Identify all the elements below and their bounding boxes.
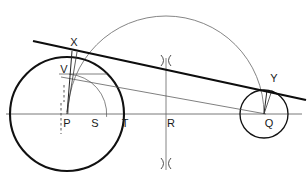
chord-near-x [67, 52, 77, 112]
label-y: Y [270, 72, 278, 84]
label-x: X [70, 36, 78, 48]
line-v-to-q [61, 77, 266, 114]
label-v: V [60, 63, 68, 75]
label-s: S [91, 117, 98, 129]
label-q: Q [265, 117, 274, 129]
radius-p-to-x [67, 51, 72, 114]
label-t: T [122, 117, 129, 129]
geometry-canvas: P S T R Q X V Y [0, 0, 308, 182]
auxiliary-arc-v-to-s [69, 74, 107, 117]
label-r: R [167, 117, 175, 129]
geometry-figure: P S T R Q X V Y [0, 0, 308, 182]
label-p: P [63, 117, 70, 129]
